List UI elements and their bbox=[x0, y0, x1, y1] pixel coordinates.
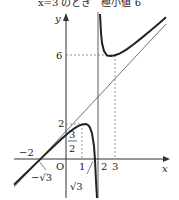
sqrt3-pointer bbox=[87, 161, 93, 174]
x-axis-label: x bbox=[162, 163, 168, 174]
y-tick-6: 6 bbox=[56, 50, 62, 61]
x-intercept-sqrt3: √3 bbox=[70, 181, 83, 192]
function-graph: y x O 6 2 3 2 −2 −√3 1 √3 2 3 bbox=[0, 0, 179, 200]
neg-sqrt3-pointer bbox=[39, 161, 46, 170]
x-tick-neg2: −2 bbox=[19, 147, 34, 158]
y-tick-2: 2 bbox=[58, 118, 64, 129]
x-axis-arrow bbox=[163, 156, 170, 162]
x-tick-3: 3 bbox=[112, 161, 118, 172]
y-axis-arrow bbox=[63, 13, 69, 21]
y-axis-label: y bbox=[54, 13, 61, 24]
x-intercept-neg-sqrt3: −√3 bbox=[31, 172, 52, 183]
y-intercept-denominator: 2 bbox=[69, 143, 75, 154]
y-intercept-numerator: 3 bbox=[69, 129, 75, 140]
origin-label: O bbox=[56, 161, 64, 172]
x-tick-1: 1 bbox=[79, 161, 85, 172]
x-tick-2: 2 bbox=[101, 161, 107, 172]
